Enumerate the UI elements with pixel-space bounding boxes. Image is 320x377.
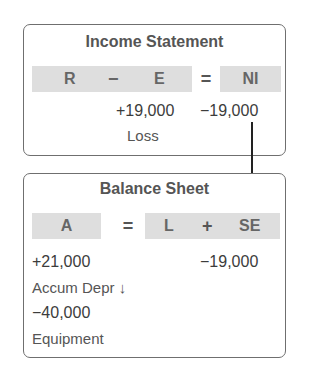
liabilities-label: L [164,217,174,235]
equals-operator: = [192,66,220,92]
liabilities-se-cell: L + SE [145,213,280,239]
balance-sheet-box: Balance Sheet A = L + SE +21,000 −19,000… [23,173,286,358]
stockholders-equity-value: −19,000 [200,253,258,271]
income-statement-box: Income Statement R − E = NI +19,000 −19,… [23,24,286,156]
assets-cell: A [32,213,101,239]
expense-label: E [154,70,165,88]
loss-label: Loss [127,127,159,144]
accum-depr-label: Accum Depr ↓ [32,279,126,296]
plus-operator: + [202,216,213,237]
equipment-label: Equipment [32,330,104,347]
stockholders-equity-label: SE [239,217,260,235]
expense-value: +19,000 [116,102,174,120]
revenue-label: R [64,70,76,88]
accum-depr-value: +21,000 [32,253,90,271]
minus-operator: − [108,69,119,90]
equals-operator: = [113,213,143,239]
equipment-value: −40,000 [32,304,90,322]
balance-sheet-title: Balance Sheet [24,180,285,198]
net-income-value: −19,000 [200,102,258,120]
income-statement-title: Income Statement [24,33,285,51]
net-income-cell: NI [220,66,281,92]
revenue-cell: R − E [32,66,192,92]
